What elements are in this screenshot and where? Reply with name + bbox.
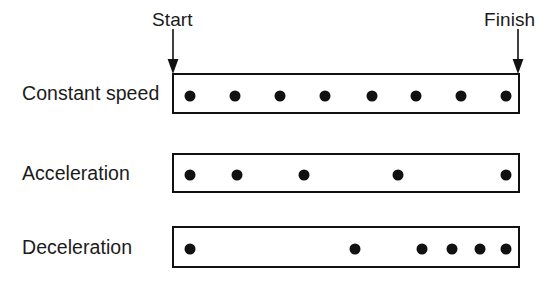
motion-dot [501, 244, 512, 255]
motion-dot [456, 90, 467, 101]
motion-dot [232, 170, 243, 181]
motion-dot [230, 90, 241, 101]
motion-dot [501, 90, 512, 101]
row-label-constant-speed: Constant speed [22, 84, 159, 104]
motion-dot [320, 90, 331, 101]
track-box-acceleration [172, 153, 520, 193]
motion-dot [475, 244, 486, 255]
motion-dot [367, 90, 378, 101]
start-arrow-icon [166, 29, 180, 75]
motion-dot [411, 90, 422, 101]
track-box-constant-speed [172, 73, 520, 114]
motion-dot [350, 244, 361, 255]
finish-arrow-icon [511, 29, 525, 75]
motion-dot-diagram: Start Finish Constant speed Acceleration… [0, 0, 553, 285]
motion-dot [393, 170, 404, 181]
motion-dot [185, 244, 196, 255]
motion-dot [447, 244, 458, 255]
track-box-deceleration [172, 226, 520, 268]
motion-dot [417, 244, 428, 255]
motion-dot [185, 170, 196, 181]
start-label: Start [152, 10, 193, 29]
finish-label: Finish [484, 10, 535, 29]
row-label-acceleration: Acceleration [22, 164, 130, 184]
motion-dot [275, 90, 286, 101]
motion-dot [299, 170, 310, 181]
row-label-deceleration: Deceleration [22, 238, 132, 258]
motion-dot [185, 90, 196, 101]
motion-dot [501, 170, 512, 181]
